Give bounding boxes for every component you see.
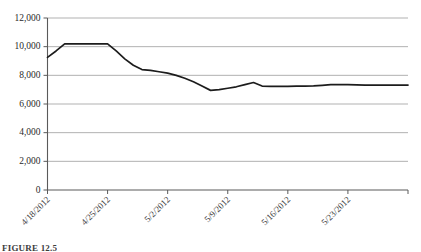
figure-caption: FIGURE 12.5 (2, 243, 57, 252)
x-axis-tick-label: 5/2/2012 (142, 194, 172, 224)
x-axis-tick-label: 5/23/2012 (319, 194, 352, 227)
y-axis-tick-label: 0 (36, 185, 41, 195)
x-axis-tick-label: 5/9/2012 (202, 194, 232, 224)
data-series-line (48, 44, 409, 91)
x-axis-tick-label: 5/16/2012 (259, 194, 292, 227)
y-axis-tick-label: 4,000 (19, 127, 41, 137)
y-axis-labels-group: 02,0004,0006,0008,00010,00012,000 (14, 13, 40, 195)
line-chart: 02,0004,0006,0008,00010,00012,000 4/18/2… (0, 0, 421, 252)
y-axis-tick-label: 6,000 (19, 99, 41, 109)
x-axis-ticks-group (48, 190, 409, 194)
x-axis-labels-group: 4/18/20124/25/20125/2/20125/9/20125/16/2… (19, 194, 352, 227)
x-axis-tick-label: 4/25/2012 (79, 194, 112, 227)
x-axis-tick-label: 4/18/2012 (19, 194, 52, 227)
y-axis-tick-label: 8,000 (19, 70, 41, 80)
y-axis-ticks-group (44, 18, 48, 190)
figure-container: 02,0004,0006,0008,00010,00012,000 4/18/2… (0, 0, 421, 252)
y-axis-tick-label: 2,000 (19, 156, 41, 166)
y-axis-tick-label: 12,000 (14, 13, 40, 23)
y-axis-tick-label: 10,000 (14, 41, 40, 51)
gridlines-group (48, 18, 409, 161)
